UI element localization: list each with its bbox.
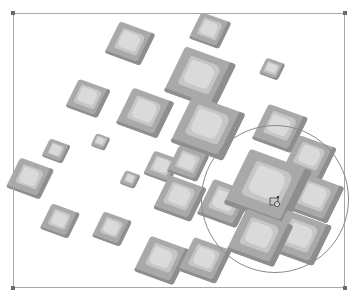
selection-handle-bottom-right[interactable] — [343, 286, 347, 290]
image-canvas[interactable] — [0, 0, 361, 301]
selection-handle-bottom-left[interactable] — [11, 286, 15, 290]
selection-handle-top-right[interactable] — [343, 11, 347, 15]
selection-handle-top-left[interactable] — [11, 11, 15, 15]
brush-clone-cursor-icon — [269, 193, 281, 205]
